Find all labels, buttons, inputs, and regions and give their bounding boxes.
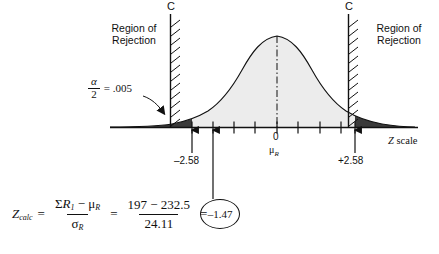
numeric-denominator: 24.11 [139, 214, 178, 232]
symbolic-fraction: ΣR1 − μR σR [50, 196, 105, 232]
left-hatch-marks [171, 20, 180, 126]
r-subscript: 1 [70, 203, 74, 212]
z-scale-rest: scale [394, 135, 418, 146]
equals-1: = [38, 206, 45, 222]
right-region-line1: Region of [366, 22, 432, 34]
left-region-of-rejection-label: Region of Rejection [102, 22, 166, 46]
equation-lhs: Zcalc [12, 206, 33, 222]
left-critical-value-label: C [167, 0, 175, 13]
right-region-line2: Rejection [366, 34, 432, 46]
right-region-of-rejection-label: Region of Rejection [366, 22, 432, 46]
z-scale-axis-label: Z scale [388, 135, 417, 147]
equals-2: = [110, 206, 117, 222]
right-hatch-marks [349, 20, 358, 126]
alpha-fraction: α 2 [88, 76, 100, 100]
left-region-line1: Region of [102, 22, 166, 34]
numeric-fraction: 197 − 232.5 24.11 [123, 197, 196, 231]
sigma-subscript: R [79, 223, 84, 232]
symbolic-numerator: ΣR1 − μR [50, 196, 105, 214]
tick-label-minus-258: –2.58 [174, 155, 199, 167]
figure-canvas: C C Region of Rejection Region of Reject… [0, 0, 439, 254]
normal-curve-fill [110, 36, 415, 127]
alpha-denominator: 2 [88, 88, 100, 101]
minus-symbolic: − [78, 196, 85, 211]
tick-label-plus-258: +2.58 [338, 155, 363, 167]
mu-r-label: μR [269, 144, 279, 158]
mu-subscript: R [274, 150, 278, 158]
alpha-leader-arrow [143, 96, 163, 112]
numeric-numerator: 197 − 232.5 [123, 197, 196, 214]
left-region-line2: Rejection [102, 34, 166, 46]
mu-subscript-eq: R [95, 203, 100, 212]
alpha-annotation: α 2 = .005 [88, 76, 132, 100]
z-calc-equation: Zcalc = ΣR1 − μR σR = 197 − 232.5 24.11 … [12, 196, 212, 232]
alpha-value: = .005 [104, 82, 132, 94]
tick-label-zero: 0 [273, 131, 279, 143]
symbolic-denominator: σR [67, 214, 89, 233]
right-critical-value-label: C [345, 0, 353, 13]
equation-lhs-sub: calc [19, 213, 32, 222]
sigma-symbol: σ [72, 216, 79, 231]
test-statistic-circled-value: –1.47 [200, 199, 240, 229]
alpha-numerator: α [88, 76, 100, 88]
